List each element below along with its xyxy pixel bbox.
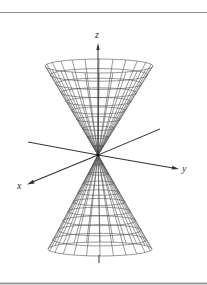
upper-cone-generator [98,60,126,155]
lower-cone-generator [74,155,98,255]
lower-cone-generator [98,155,145,253]
y-axis-label: y [181,163,187,174]
upper-cone-generator [52,63,98,156]
upper-cone-mesh [45,59,153,155]
figure-frame: z x y [0,0,207,285]
x-axis-arrowhead [27,180,35,185]
upper-cone-generator [61,61,98,155]
lower-cone-generator [63,155,98,254]
lower-cone-generator [98,155,126,255]
negative-y-axis [28,142,98,155]
y-axis-arrowhead [172,166,179,170]
lower-cone-mesh [48,155,152,256]
double-cone-figure: z x y [0,0,207,285]
y-axis [98,155,176,169]
cone-apex [96,153,99,156]
z-axis-arrowhead [96,43,99,50]
upper-cone-generator [98,72,126,155]
lower-cone-generator [74,155,98,243]
lower-cone-generator [98,155,137,254]
z-axis-label: z [94,29,99,40]
lower-cone-generator [98,155,137,244]
upper-cone-generator [98,71,137,155]
x-axis-label: x [16,180,22,191]
upper-cone-generator [47,64,98,155]
lower-cone-generator [55,155,98,246]
